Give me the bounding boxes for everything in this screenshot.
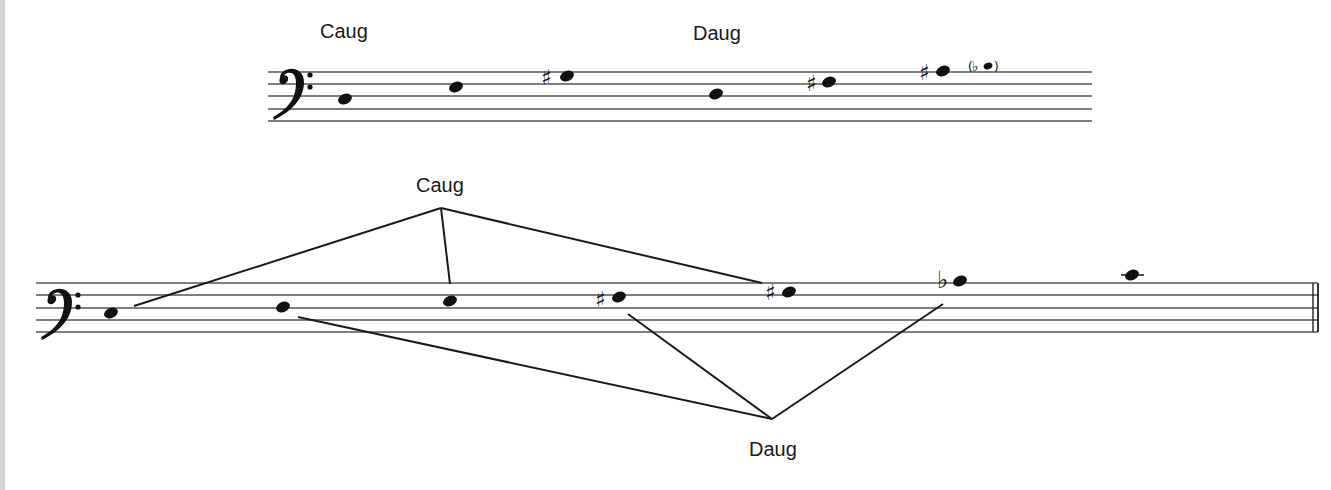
sharp-icon: ♯: [919, 60, 930, 85]
note-d: [274, 300, 291, 315]
top-staff-lines: [268, 72, 1092, 121]
daug-label-top: Daug: [693, 22, 741, 44]
flat-icon: ♭: [972, 58, 979, 74]
daug-label-bottom: Daug: [749, 438, 797, 460]
note-g-sharp: [780, 285, 797, 300]
flat-icon: ♭: [937, 266, 948, 294]
note-b-flat: [951, 274, 968, 289]
note-e: [441, 294, 458, 309]
sharp-icon: ♯: [765, 280, 776, 305]
top-staff: Caug Daug ♯ ♯ ♯ ( ♭ ): [268, 20, 1092, 121]
caug-connectors: [134, 208, 762, 306]
caug-label-bottom: Caug: [416, 174, 464, 196]
sharp-icon: ♯: [541, 65, 552, 90]
note-c-high: [1121, 268, 1144, 283]
bottom-staff-lines: [36, 283, 1318, 332]
note-f-sharp: [610, 290, 627, 305]
note-e: [447, 80, 464, 95]
note-g-sharp: [558, 69, 575, 84]
paren-close: ): [994, 60, 999, 74]
caug-label-top: Caug: [320, 20, 368, 42]
note-f-sharp: [820, 75, 837, 90]
score-figure: Caug Daug ♯ ♯ ♯ ( ♭ ): [0, 0, 1331, 490]
note-a-sharp: [934, 64, 951, 79]
bottom-staff: Caug Daug ♯ ♯ ♭: [36, 174, 1318, 460]
daug-connectors: [298, 304, 943, 419]
sharp-icon: ♯: [806, 71, 817, 96]
note-d: [707, 87, 724, 102]
bass-clef-icon: [273, 69, 313, 120]
note-c: [336, 92, 353, 107]
sharp-icon: ♯: [595, 287, 606, 312]
